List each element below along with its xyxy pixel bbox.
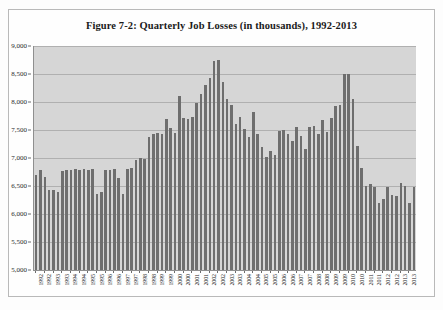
x-axis-tick-label: 1995 (99, 274, 105, 286)
bar (404, 186, 407, 270)
x-axis-tick-label: 2010 (359, 274, 365, 286)
y-axis-tick-label: 8,500 (11, 70, 27, 78)
x-axis-tick-mark (87, 271, 88, 273)
bar (182, 118, 185, 270)
bar (413, 187, 416, 270)
bar (174, 133, 177, 270)
x-axis-tick-mark (113, 271, 114, 273)
y-axis-tick-mark (28, 158, 31, 159)
x-axis-tick-mark (131, 271, 132, 273)
bar (295, 127, 298, 270)
x-axis-tick-label: 2006 (290, 274, 296, 286)
bar (35, 175, 38, 270)
bar (44, 177, 47, 270)
x-axis-tick-mark (96, 271, 97, 273)
bar (113, 169, 116, 270)
x-axis-tick-mark (148, 271, 149, 273)
bar (83, 169, 86, 270)
x-axis-tick-mark (400, 271, 401, 273)
x-axis-tick-label: 1999 (168, 274, 174, 286)
x-axis-tick-mark (322, 271, 323, 273)
x-axis-tick-label: 2011 (376, 274, 382, 285)
bar (235, 124, 238, 270)
x-axis-tick-mark (217, 271, 218, 273)
x-axis-tick-label: 2005 (272, 274, 278, 286)
x-axis-tick-mark (270, 271, 271, 273)
x-axis-tick-label: 2001 (203, 274, 209, 286)
x-axis-tick-mark (79, 271, 80, 273)
x-axis-tick-label: 2003 (237, 274, 243, 286)
bar (57, 192, 60, 270)
x-axis-tick-label: 2006 (281, 274, 287, 286)
bar (352, 99, 355, 270)
bar (261, 147, 264, 270)
x-axis-tick-label: 1993 (64, 274, 70, 286)
y-axis-tick-label: 8,000 (11, 98, 27, 106)
bar (117, 178, 120, 270)
bar (126, 169, 129, 270)
x-axis-tick-label: 1997 (133, 274, 139, 286)
bar (343, 74, 346, 270)
x-axis-tick-mark (304, 271, 305, 273)
bar (104, 170, 107, 270)
y-axis-tick-mark (28, 46, 31, 47)
bar (87, 170, 90, 270)
bar (360, 168, 363, 270)
y-axis-tick-label: 6,500 (11, 182, 27, 190)
y-axis-tick-mark (28, 130, 31, 131)
x-axis-tick-mark (139, 271, 140, 273)
x-axis-tick-label: 2002 (211, 274, 217, 286)
bar (156, 133, 159, 270)
y-axis-tick-label: 9,000 (11, 42, 27, 50)
y-axis-tick-mark (28, 242, 31, 243)
bar (369, 184, 372, 270)
x-axis-tick-mark (70, 271, 71, 273)
bar (373, 187, 376, 270)
bar (143, 159, 146, 270)
bar (130, 168, 133, 270)
bar (243, 129, 246, 270)
x-axis-tick-label: 1993 (55, 274, 61, 286)
x-axis-tick-label: 2007 (307, 274, 313, 286)
x-axis-tick-label: 1998 (142, 274, 148, 286)
x-axis-tick-label: 2004 (246, 274, 252, 286)
x-axis-tick-mark (209, 271, 210, 273)
x-axis-tick-mark (296, 271, 297, 273)
bar (386, 187, 389, 270)
bar (391, 195, 394, 270)
x-axis-tick-mark (61, 271, 62, 273)
y-axis-tick-mark (28, 214, 31, 215)
y-axis-tick-label: 5,500 (11, 238, 27, 246)
bar (200, 94, 203, 270)
x-axis-tick-label: 1992 (46, 274, 52, 286)
x-axis-tick-label: 2013 (411, 274, 417, 286)
bar (278, 131, 281, 270)
bar (217, 60, 220, 270)
x-axis-tick-mark (191, 271, 192, 273)
x-axis-tick-mark (157, 271, 158, 273)
x-axis-tick-label: 2010 (350, 274, 356, 286)
bar (269, 151, 272, 270)
bar (178, 96, 181, 270)
x-axis-tick-label: 1994 (72, 274, 78, 286)
x-axis-tick-mark (408, 271, 409, 273)
bar (256, 134, 259, 270)
x-axis-tick-mark (200, 271, 201, 273)
x-axis-tick-label: 2008 (316, 274, 322, 286)
figure-container: Figure 7-2: Quarterly Job Losses (in tho… (0, 0, 443, 310)
bar (91, 169, 94, 270)
x-axis-tick-mark (105, 271, 106, 273)
x-axis-tick-mark (391, 271, 392, 273)
x-axis-tick-label: 2012 (394, 274, 400, 286)
x-axis-tick-mark (287, 271, 288, 273)
x-axis-tick-mark (44, 271, 45, 273)
bar (274, 155, 277, 270)
bar (395, 196, 398, 270)
bar (61, 171, 64, 270)
bar-series (34, 46, 416, 270)
bar (287, 134, 290, 270)
bar (382, 199, 385, 270)
x-axis-tick-mark (165, 271, 166, 273)
x-axis-tick-label: 2000 (185, 274, 191, 286)
bar (169, 128, 172, 270)
